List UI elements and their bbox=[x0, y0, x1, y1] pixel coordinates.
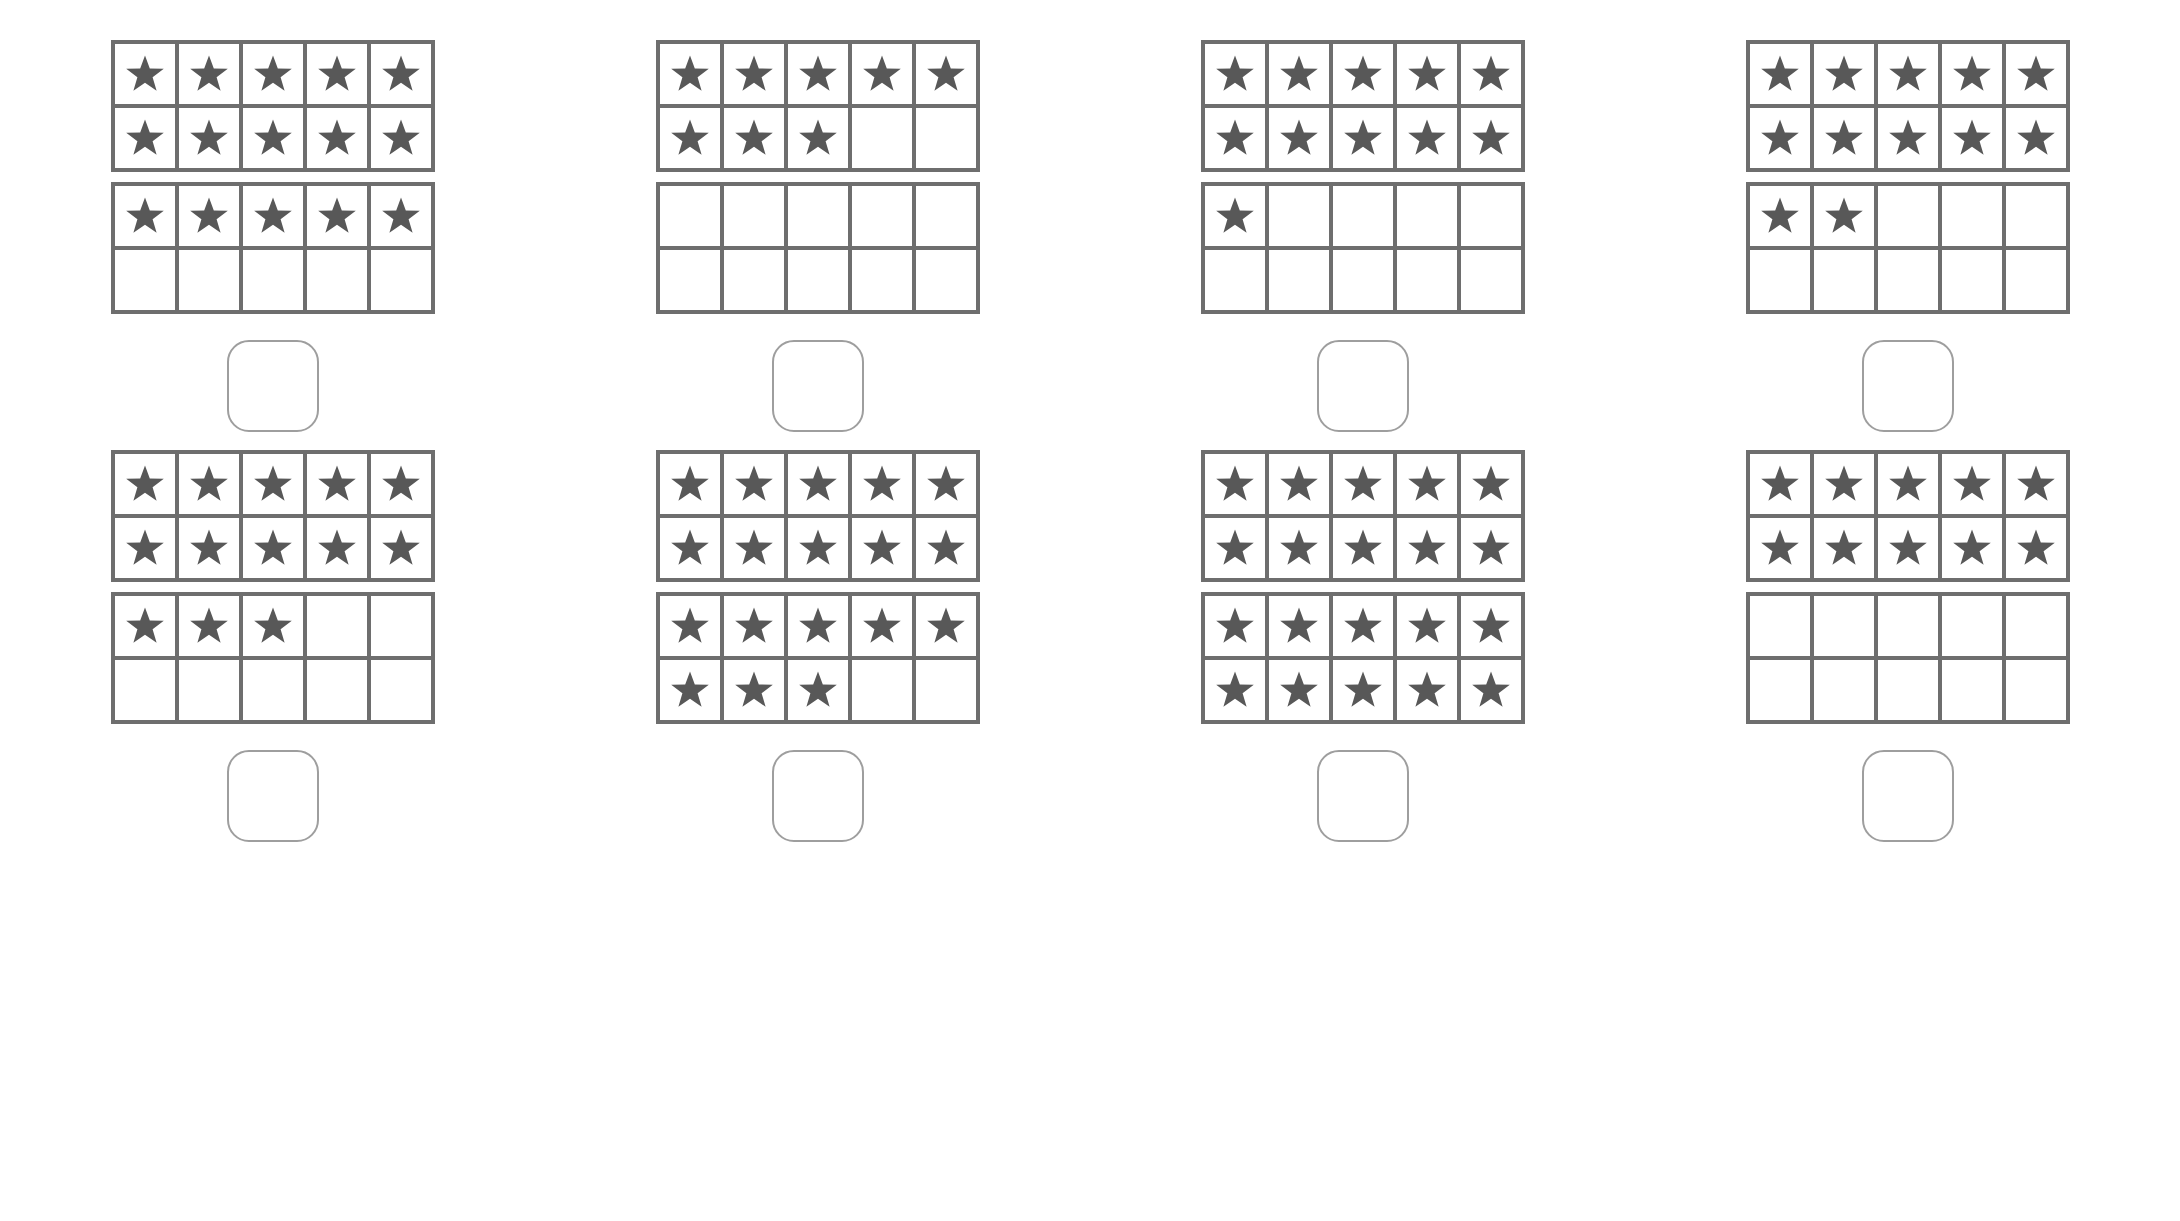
ten-frame-cell-filled[interactable] bbox=[788, 518, 848, 578]
ten-frame-cell-filled[interactable] bbox=[1205, 44, 1265, 104]
ten-frame-cell-filled[interactable] bbox=[1205, 660, 1265, 720]
ten-frame-cell-empty[interactable] bbox=[1942, 250, 2002, 310]
ten-frame-cell-filled[interactable] bbox=[1461, 518, 1521, 578]
ten-frame-cell-filled[interactable] bbox=[179, 518, 239, 578]
ten-frame-cell-filled[interactable] bbox=[724, 108, 784, 168]
ten-frame-cell-empty[interactable] bbox=[371, 660, 431, 720]
ten-frame-cell-filled[interactable] bbox=[1333, 518, 1393, 578]
ten-frame-cell-filled[interactable] bbox=[179, 108, 239, 168]
ten-frame-cell-filled[interactable] bbox=[1878, 108, 1938, 168]
ten-frame-cell-empty[interactable] bbox=[2006, 250, 2066, 310]
ten-frame-cell-filled[interactable] bbox=[115, 596, 175, 656]
ten-frame-cell-empty[interactable] bbox=[1942, 186, 2002, 246]
ten-frame-cell-empty[interactable] bbox=[1397, 250, 1457, 310]
ten-frame-cell-empty[interactable] bbox=[852, 108, 912, 168]
ten-frame-cell-empty[interactable] bbox=[1397, 186, 1457, 246]
ten-frame-cell-filled[interactable] bbox=[1333, 44, 1393, 104]
ten-frame-cell-empty[interactable] bbox=[1750, 660, 1810, 720]
ten-frame-cell-filled[interactable] bbox=[916, 44, 976, 104]
ten-frame-cell-filled[interactable] bbox=[788, 596, 848, 656]
ten-frame-cell-empty[interactable] bbox=[852, 660, 912, 720]
ten-frame-cell-filled[interactable] bbox=[307, 454, 367, 514]
ten-frame-cell-filled[interactable] bbox=[852, 44, 912, 104]
ten-frame-cell-filled[interactable] bbox=[1269, 518, 1329, 578]
ten-frame-cell-empty[interactable] bbox=[1814, 250, 1874, 310]
ten-frame-cell-empty[interactable] bbox=[115, 250, 175, 310]
ten-frame-cell-filled[interactable] bbox=[1269, 44, 1329, 104]
ten-frame-cell-filled[interactable] bbox=[1878, 44, 1938, 104]
ten-frame-cell-empty[interactable] bbox=[788, 250, 848, 310]
ten-frame-cell-filled[interactable] bbox=[1878, 518, 1938, 578]
ten-frame-cell-empty[interactable] bbox=[1461, 250, 1521, 310]
ten-frame-cell-filled[interactable] bbox=[243, 596, 303, 656]
ten-frame-cell-filled[interactable] bbox=[660, 518, 720, 578]
ten-frame-cell-filled[interactable] bbox=[1397, 518, 1457, 578]
ten-frame-cell-filled[interactable] bbox=[1269, 108, 1329, 168]
ten-frame-cell-filled[interactable] bbox=[1333, 660, 1393, 720]
ten-frame-cell-empty[interactable] bbox=[916, 186, 976, 246]
ten-frame-cell-filled[interactable] bbox=[788, 108, 848, 168]
ten-frame-cell-filled[interactable] bbox=[243, 44, 303, 104]
ten-frame-cell-empty[interactable] bbox=[916, 660, 976, 720]
ten-frame-cell-filled[interactable] bbox=[788, 44, 848, 104]
ten-frame-cell-filled[interactable] bbox=[1333, 108, 1393, 168]
ten-frame-cell-filled[interactable] bbox=[179, 186, 239, 246]
ten-frame-cell-empty[interactable] bbox=[724, 186, 784, 246]
ten-frame-cell-filled[interactable] bbox=[1942, 454, 2002, 514]
ten-frame-cell-empty[interactable] bbox=[852, 250, 912, 310]
ten-frame-cell-filled[interactable] bbox=[115, 108, 175, 168]
ten-frame-cell-empty[interactable] bbox=[1750, 596, 1810, 656]
ten-frame-cell-empty[interactable] bbox=[243, 660, 303, 720]
ten-frame-cell-empty[interactable] bbox=[2006, 660, 2066, 720]
ten-frame-cell-filled[interactable] bbox=[2006, 44, 2066, 104]
ten-frame-cell-filled[interactable] bbox=[1269, 596, 1329, 656]
ten-frame-cell-filled[interactable] bbox=[660, 660, 720, 720]
ten-frame-cell-empty[interactable] bbox=[788, 186, 848, 246]
ten-frame-cell-filled[interactable] bbox=[243, 186, 303, 246]
ten-frame-cell-filled[interactable] bbox=[371, 518, 431, 578]
ten-frame-cell-empty[interactable] bbox=[916, 108, 976, 168]
ten-frame-cell-filled[interactable] bbox=[852, 596, 912, 656]
ten-frame-cell-empty[interactable] bbox=[1942, 596, 2002, 656]
ten-frame-cell-filled[interactable] bbox=[1750, 186, 1810, 246]
ten-frame-cell-empty[interactable] bbox=[307, 660, 367, 720]
ten-frame-cell-filled[interactable] bbox=[1750, 44, 1810, 104]
ten-frame-cell-filled[interactable] bbox=[788, 660, 848, 720]
ten-frame-cell-empty[interactable] bbox=[179, 660, 239, 720]
ten-frame-cell-filled[interactable] bbox=[916, 518, 976, 578]
ten-frame-cell-empty[interactable] bbox=[1461, 186, 1521, 246]
ten-frame-cell-filled[interactable] bbox=[1461, 454, 1521, 514]
ten-frame-cell-filled[interactable] bbox=[1269, 660, 1329, 720]
ten-frame-cell-empty[interactable] bbox=[660, 186, 720, 246]
ten-frame-cell-empty[interactable] bbox=[1878, 660, 1938, 720]
ten-frame-cell-filled[interactable] bbox=[660, 108, 720, 168]
ten-frame-cell-filled[interactable] bbox=[179, 44, 239, 104]
ten-frame-cell-filled[interactable] bbox=[916, 596, 976, 656]
ten-frame-cell-filled[interactable] bbox=[1942, 518, 2002, 578]
answer-box[interactable] bbox=[1317, 750, 1409, 842]
ten-frame-cell-filled[interactable] bbox=[1461, 596, 1521, 656]
answer-box[interactable] bbox=[772, 750, 864, 842]
ten-frame-cell-empty[interactable] bbox=[1269, 186, 1329, 246]
ten-frame-cell-filled[interactable] bbox=[371, 108, 431, 168]
ten-frame-cell-filled[interactable] bbox=[1397, 454, 1457, 514]
ten-frame-cell-empty[interactable] bbox=[916, 250, 976, 310]
ten-frame-cell-filled[interactable] bbox=[1461, 44, 1521, 104]
ten-frame-cell-filled[interactable] bbox=[243, 454, 303, 514]
ten-frame-cell-empty[interactable] bbox=[1333, 250, 1393, 310]
ten-frame-cell-filled[interactable] bbox=[660, 454, 720, 514]
answer-box[interactable] bbox=[1317, 340, 1409, 432]
ten-frame-cell-filled[interactable] bbox=[1750, 518, 1810, 578]
ten-frame-cell-filled[interactable] bbox=[660, 44, 720, 104]
ten-frame-cell-filled[interactable] bbox=[2006, 108, 2066, 168]
ten-frame-cell-filled[interactable] bbox=[307, 44, 367, 104]
ten-frame-cell-filled[interactable] bbox=[307, 518, 367, 578]
answer-box[interactable] bbox=[227, 750, 319, 842]
ten-frame-cell-filled[interactable] bbox=[852, 518, 912, 578]
ten-frame-cell-empty[interactable] bbox=[1333, 186, 1393, 246]
ten-frame-cell-filled[interactable] bbox=[1333, 454, 1393, 514]
ten-frame-cell-filled[interactable] bbox=[243, 518, 303, 578]
ten-frame-cell-filled[interactable] bbox=[371, 186, 431, 246]
ten-frame-cell-empty[interactable] bbox=[1878, 596, 1938, 656]
ten-frame-cell-filled[interactable] bbox=[724, 518, 784, 578]
